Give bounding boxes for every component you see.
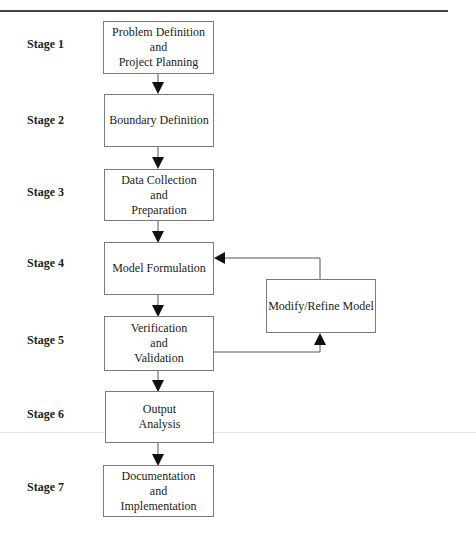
stage-label-6: Stage 6	[27, 407, 64, 421]
box-line: and	[150, 336, 167, 351]
box-line: Analysis	[139, 417, 181, 432]
arrow-down-icon	[152, 157, 164, 169]
stage-label-2: Stage 2	[27, 113, 64, 127]
feedback-box-modify-refine-model: Modify/Refine Model	[266, 279, 376, 333]
box-line: Preparation	[131, 203, 186, 218]
stage-label-1: Stage 1	[27, 37, 64, 51]
stage-label-5: Stage 5	[27, 333, 64, 347]
box-line: Model Formulation	[112, 261, 206, 276]
stage-label-7: Stage 7	[27, 480, 64, 494]
scan-line	[0, 432, 476, 433]
box-line: and	[150, 188, 167, 203]
top-rule	[0, 10, 448, 12]
box-line: and	[150, 40, 167, 55]
box-line: Project Planning	[119, 55, 199, 70]
stage-box-verification-validation: Verification and Validation	[104, 316, 214, 371]
stage-box-output-analysis: Output Analysis	[105, 391, 214, 443]
arrow-left-icon	[214, 252, 225, 264]
stage-label-3: Stage 3	[27, 185, 64, 199]
box-line: Implementation	[121, 499, 197, 514]
stage-box-problem-definition: Problem Definition and Project Planning	[103, 21, 214, 74]
box-line: Validation	[134, 351, 183, 366]
arrow-up-icon	[314, 333, 326, 345]
box-line: Output	[143, 402, 176, 417]
stage-label-4: Stage 4	[27, 256, 64, 270]
box-line: and	[150, 484, 167, 499]
box-line: Boundary Definition	[109, 113, 209, 128]
box-line: Verification	[131, 321, 188, 336]
stage-box-documentation-implementation: Documentation and Implementation	[103, 465, 214, 517]
arrow-down-icon	[152, 82, 164, 94]
box-line: Data Collection	[121, 173, 197, 188]
stage-box-boundary-definition: Boundary Definition	[104, 94, 214, 147]
box-line: Documentation	[122, 469, 196, 484]
box-line: Problem Definition	[112, 25, 205, 40]
stage-box-model-formulation: Model Formulation	[104, 242, 214, 295]
box-line: Modify/Refine Model	[268, 299, 374, 314]
stage-box-data-collection: Data Collection and Preparation	[104, 169, 214, 221]
connectors	[0, 0, 476, 535]
